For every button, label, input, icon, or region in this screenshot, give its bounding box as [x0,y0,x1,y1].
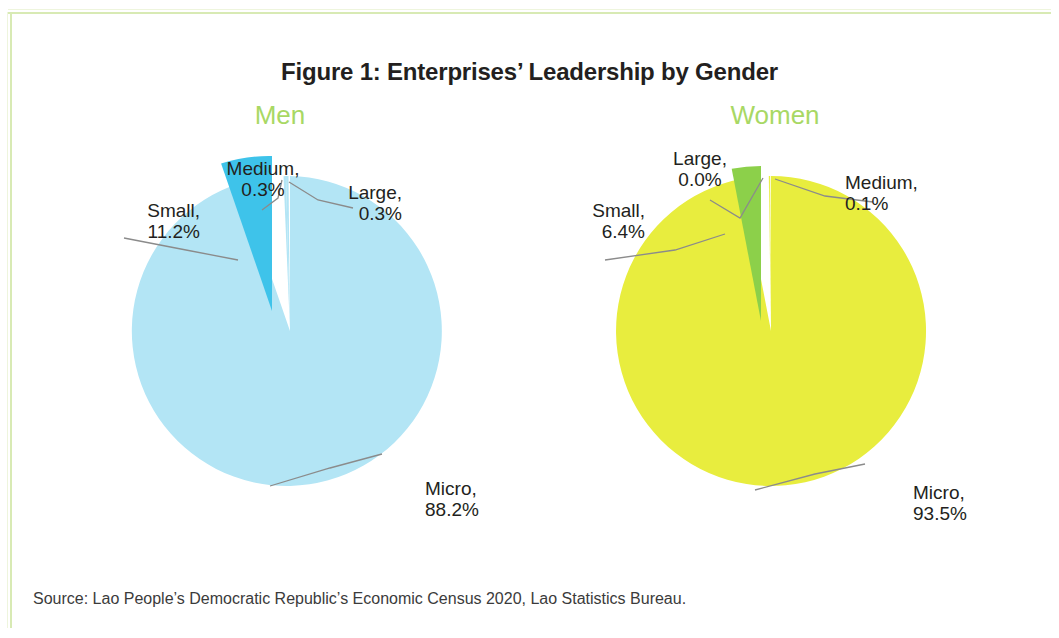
frame-left-hairline [7,12,8,628]
callout-men-large: Large, 0.3% [302,182,402,225]
figure-container: Figure 1: Enterprises’ Leadership by Gen… [0,0,1059,638]
callout-women-small: Small, 6.4% [540,200,645,243]
panel-heading-women: Women [525,100,1025,131]
panel-heading-men: Men [30,100,530,131]
panel-women: Women Small, 6.4% Large, 0.0% Medium, 0.… [525,100,1025,560]
panel-men: Men Small, 11.2% Medium, 0.3% Large, 0.3… [30,100,530,560]
callout-women-large: Large, 0.0% [635,148,765,191]
callout-men-small: Small, 11.2% [95,200,200,243]
frame-top-hairline [8,9,1051,10]
source-note: Source: Lao People’s Democratic Republic… [33,590,686,608]
pie-slice-women-medium [769,176,771,331]
frame-top-border [8,12,1051,14]
pie-slice-women-micro [616,176,926,486]
figure-title: Figure 1: Enterprises’ Leadership by Gen… [0,58,1059,86]
frame-left-border [10,12,12,628]
callout-women-micro: Micro, 93.5% [913,482,1053,525]
callout-women-medium: Medium, 0.1% [845,172,1005,215]
